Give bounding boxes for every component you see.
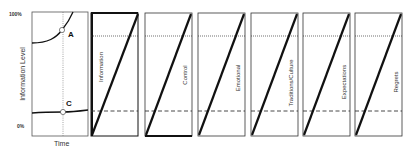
point-label-c: C	[66, 99, 72, 108]
panel-label-regrets: Regrets	[393, 71, 399, 92]
y-tick-0: 0%	[17, 123, 24, 129]
y-axis-label: Information Level	[19, 47, 26, 101]
panel-label-information: Information	[98, 52, 104, 82]
diagram-graphics	[0, 0, 416, 154]
panel-label-control: Control	[182, 65, 188, 84]
point-label-a: A	[68, 30, 74, 39]
x-axis-label: Time	[54, 140, 69, 147]
diagram-canvas: 100% 0% Information Level Time A C Infor…	[0, 0, 416, 154]
panel-label-emotional: Emotional	[235, 65, 241, 92]
information-level-chart	[32, 12, 88, 136]
panel-label-traditions-culture: Traditions/Culture	[288, 59, 294, 106]
y-tick-100: 100%	[9, 11, 22, 17]
panel-label-expectations: Expectations	[341, 65, 347, 99]
